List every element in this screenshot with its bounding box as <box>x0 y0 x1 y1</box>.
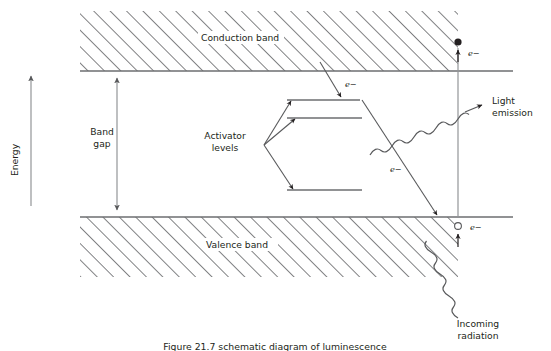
band-gap-label-line2: gap <box>93 138 110 149</box>
electron-label-cb-to-activator: e− <box>345 79 357 89</box>
luminescence-band-diagram: Conduction band Valence band Energy Band… <box>0 0 551 351</box>
energy-axis: Energy <box>9 76 31 206</box>
transition-activator-to-vb: e− <box>362 100 437 215</box>
band-gap-indicator: Band gap <box>90 78 117 210</box>
light-emission-label-line2: emission <box>492 107 533 118</box>
figure-svg: Conduction band Valence band Energy Band… <box>0 0 551 351</box>
light-emission-label-line1: Light <box>492 95 515 106</box>
light-emission-arrow <box>465 105 482 112</box>
incoming-radiation-group: Incoming radiation <box>425 241 499 341</box>
electron-label-valence-hole: e− <box>470 222 482 232</box>
activator-leader-arrow-2 <box>264 119 295 145</box>
electron-dot <box>454 38 461 45</box>
band-gap-label-line1: Band <box>90 126 114 137</box>
activator-levels-group: Activator levels <box>204 100 362 190</box>
conduction-band-label: Conduction band <box>201 32 279 43</box>
light-emission-group: Light emission <box>370 95 533 155</box>
activator-leader-arrow-3 <box>264 145 293 189</box>
activator-leader-arrow-1 <box>264 101 291 145</box>
light-emission-wave <box>370 113 469 155</box>
figure-caption-group: Figure 21.7 schematic diagram of lumines… <box>163 341 387 351</box>
activator-label-line1: Activator <box>204 130 246 141</box>
conduction-band-region: Conduction band <box>80 11 513 71</box>
figure-caption: Figure 21.7 schematic diagram of lumines… <box>163 341 387 351</box>
energy-axis-label: Energy <box>9 143 20 176</box>
electron-label-activator-to-vb: e− <box>390 164 402 174</box>
excitation-axis-line: e− <box>454 38 479 217</box>
valence-band-label: Valence band <box>206 239 268 250</box>
incoming-radiation-label-line2: radiation <box>457 330 498 341</box>
electron-label-excited-top: e− <box>468 48 480 58</box>
hole-group: e− <box>455 222 482 247</box>
valence-band-region: Valence band <box>80 217 513 277</box>
activator-label-line2: levels <box>212 142 239 153</box>
activator-to-vb-arrow <box>362 100 437 215</box>
incoming-radiation-label-line1: Incoming <box>457 318 499 329</box>
hole-circle-icon <box>455 223 462 230</box>
